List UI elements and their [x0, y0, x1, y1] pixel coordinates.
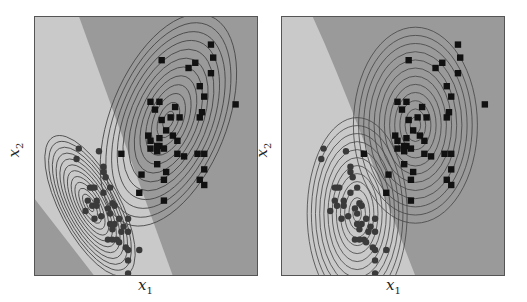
- circle-marker: [109, 226, 115, 232]
- square-marker: [457, 54, 463, 60]
- circle-marker: [125, 229, 131, 235]
- circle-marker: [363, 216, 369, 222]
- square-marker: [156, 99, 162, 105]
- left-plot-panel: [34, 16, 258, 276]
- circle-marker: [354, 210, 360, 216]
- square-marker: [394, 145, 400, 151]
- square-marker: [421, 151, 427, 157]
- circle-marker: [343, 148, 349, 154]
- square-marker: [441, 151, 447, 157]
- square-marker: [403, 99, 409, 105]
- circle-marker: [372, 247, 378, 253]
- square-marker: [410, 127, 416, 133]
- circle-marker: [383, 247, 389, 253]
- square-marker: [385, 171, 391, 177]
- circle-marker: [125, 257, 131, 263]
- right-plot-panel: [281, 16, 505, 276]
- square-marker: [152, 106, 158, 112]
- square-marker: [201, 182, 207, 188]
- square-marker: [208, 41, 214, 47]
- circle-marker: [107, 184, 113, 190]
- square-marker: [158, 57, 164, 63]
- circle-marker: [116, 239, 122, 245]
- right-x-axis-label: x1: [386, 276, 401, 296]
- square-marker: [147, 138, 153, 144]
- square-marker: [408, 145, 414, 151]
- square-marker: [197, 83, 203, 89]
- circle-marker: [96, 148, 102, 154]
- circle-marker: [91, 184, 97, 190]
- square-marker: [423, 114, 429, 120]
- circle-marker: [365, 229, 371, 235]
- square-marker: [199, 109, 205, 115]
- left-y-label-sub: 2: [14, 143, 25, 149]
- square-marker: [401, 148, 407, 154]
- square-marker: [448, 151, 454, 157]
- circle-marker: [116, 216, 122, 222]
- square-marker: [383, 190, 389, 196]
- square-marker: [167, 114, 173, 120]
- square-marker: [172, 104, 178, 110]
- square-marker: [138, 171, 144, 177]
- square-marker: [176, 114, 182, 120]
- square-marker: [410, 169, 416, 175]
- square-marker: [185, 65, 191, 71]
- square-marker: [118, 151, 124, 157]
- left-y-label-var: x: [5, 149, 23, 157]
- square-marker: [439, 60, 445, 66]
- square-marker: [448, 166, 454, 172]
- square-marker: [232, 101, 238, 107]
- square-marker: [414, 114, 420, 120]
- square-marker: [421, 138, 427, 144]
- square-marker: [161, 145, 167, 151]
- square-marker: [455, 41, 461, 47]
- square-marker: [147, 99, 153, 105]
- circle-marker: [334, 203, 340, 209]
- right-y-label-sub: 2: [262, 143, 273, 149]
- square-marker: [154, 148, 160, 154]
- square-marker: [403, 135, 409, 141]
- circle-marker: [327, 208, 333, 214]
- square-marker: [401, 161, 407, 167]
- square-marker: [448, 182, 454, 188]
- circle-marker: [125, 216, 131, 222]
- circle-marker: [107, 210, 113, 216]
- circle-marker: [345, 213, 351, 219]
- square-marker: [408, 177, 414, 183]
- square-marker: [161, 197, 167, 203]
- square-marker: [201, 151, 207, 157]
- square-marker: [394, 99, 400, 105]
- circle-marker: [91, 216, 97, 222]
- circle-marker: [125, 247, 131, 253]
- circle-marker: [136, 247, 142, 253]
- square-marker: [446, 109, 452, 115]
- circle-marker: [111, 203, 117, 209]
- circle-marker: [318, 156, 324, 162]
- circle-marker: [94, 203, 100, 209]
- square-marker: [394, 138, 400, 144]
- square-marker: [201, 93, 207, 99]
- square-marker: [208, 70, 214, 76]
- circle-marker: [320, 145, 326, 151]
- circle-marker: [73, 156, 79, 162]
- circle-marker: [349, 174, 355, 180]
- square-marker: [136, 190, 142, 196]
- square-marker: [444, 83, 450, 89]
- left-x-label-sub: 1: [146, 285, 152, 296]
- right-x-label-sub: 1: [394, 285, 400, 296]
- circle-marker: [98, 213, 104, 219]
- square-marker: [154, 161, 160, 167]
- square-marker: [161, 177, 167, 183]
- right-y-axis-label: x2: [253, 143, 273, 158]
- circle-marker: [338, 216, 344, 222]
- square-marker: [201, 166, 207, 172]
- square-marker: [158, 117, 164, 123]
- square-marker: [455, 70, 461, 76]
- circle-marker: [82, 208, 88, 214]
- square-marker: [361, 151, 367, 157]
- right-plot-area: [281, 16, 505, 276]
- square-marker: [419, 104, 425, 110]
- square-marker: [405, 117, 411, 123]
- circle-marker: [100, 190, 106, 196]
- square-marker: [210, 54, 216, 60]
